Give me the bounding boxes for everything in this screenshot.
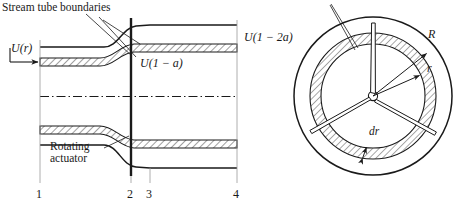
stream-tube-group [10, 14, 237, 183]
radius-R-arrow [373, 54, 427, 97]
wake-velocity-label: U(1 − 2a) [244, 31, 293, 44]
station-label-4: 4 [233, 187, 239, 202]
leader-stream-boundary-a [86, 14, 132, 56]
rotating-actuator-line1: Rotating [50, 140, 90, 152]
station-label-2: 2 [127, 187, 133, 202]
radius-r-arrow [373, 76, 420, 97]
disc-velocity-label: U(1 − a) [140, 57, 183, 70]
station-label-3: 3 [146, 187, 152, 202]
inflow-velocity-label: U(r) [11, 42, 32, 55]
stream-tube-boundaries-label: Stream tube boundaries [2, 1, 111, 13]
station-label-1: 1 [36, 187, 42, 202]
outer-radius-label: R [428, 28, 435, 41]
element-radius-label: r [427, 62, 432, 75]
rotating-actuator-label: Rotating actuator [50, 140, 90, 165]
rotating-actuator-line2: actuator [50, 152, 90, 164]
leader-stream-boundary-c [103, 20, 140, 44]
rotor-blade-1 [371, 23, 376, 94]
element-thickness-label: dr [369, 125, 379, 137]
figure-canvas [0, 0, 462, 207]
